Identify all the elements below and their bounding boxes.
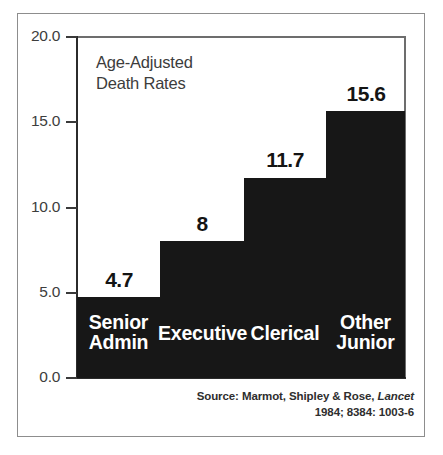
category-label-other-junior-line1: Other (326, 313, 405, 333)
y-tick-mark-0 (66, 377, 77, 379)
chart-title-line1: Age-Adjusted (96, 52, 193, 73)
y-tick-label-5: 5.0 (2, 283, 60, 301)
category-label-executive-line1: Executive (158, 324, 246, 344)
source-citation-line1: Source: Marmot, Shipley & Rose, Lancet (197, 389, 414, 405)
category-label-senior-admin-line1: Senior (77, 313, 160, 333)
category-label-clerical: Clerical (244, 324, 326, 344)
value-label-clerical: 11.7 (248, 148, 322, 172)
y-tick-mark-15 (66, 121, 77, 123)
category-label-senior-admin-line2: Admin (77, 333, 160, 353)
source-citation-line2: 1984; 8384: 1003-6 (197, 405, 414, 421)
y-tick-mark-10 (66, 207, 77, 209)
bar-executive (160, 241, 244, 378)
category-label-other-junior: Other Junior (326, 313, 405, 353)
category-label-other-junior-line2: Junior (326, 333, 405, 353)
bar-clerical (244, 178, 326, 378)
y-tick-label-15: 15.0 (2, 112, 60, 130)
y-tick-label-10: 10.0 (2, 198, 60, 216)
figure-container: 20.0 15.0 10.0 5.0 0.0 4.7 8 11.7 15.6 S… (0, 0, 443, 455)
y-tick-mark-5 (66, 292, 77, 294)
y-tick-label-0: 0.0 (2, 368, 60, 386)
category-label-clerical-line1: Clerical (244, 324, 326, 344)
source-citation-journal: Lancet (378, 390, 414, 402)
y-tick-mark-20 (66, 36, 77, 38)
value-label-senior-admin: 4.7 (82, 268, 156, 292)
source-citation-prefix: Source: Marmot, Shipley & Rose, (197, 390, 378, 402)
category-label-executive: Executive (158, 324, 246, 344)
y-tick-label-20: 20.0 (2, 27, 60, 45)
category-label-senior-admin: Senior Admin (77, 313, 160, 353)
value-label-executive: 8 (165, 212, 239, 236)
source-citation: Source: Marmot, Shipley & Rose, Lancet 1… (197, 389, 414, 420)
value-label-other-junior: 15.6 (329, 82, 403, 106)
chart-title-line2: Death Rates (96, 73, 193, 94)
plot-top-spine (76, 36, 406, 38)
chart-title: Age-Adjusted Death Rates (96, 52, 193, 94)
